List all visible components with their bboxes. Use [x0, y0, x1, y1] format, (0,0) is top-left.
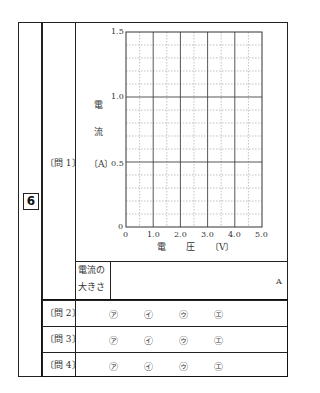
x-axis-label-char-1: 電 — [157, 243, 166, 252]
current-answer-label-line1: 電流の — [78, 266, 105, 275]
x-axis-label-char-2: 圧 — [186, 243, 195, 252]
lower-answer-block-frame — [41, 299, 288, 377]
y-axis-label-char-1: 電 — [94, 101, 103, 110]
x-tick-0: 0 — [123, 231, 128, 239]
graph-grid[interactable] — [126, 32, 262, 227]
question-1-label: 〔問 1〕 — [45, 159, 81, 168]
question-number-badge: 6 — [23, 193, 39, 210]
y-tick-1.0: 1.0 — [111, 93, 124, 101]
current-answer-unit: A — [276, 278, 282, 286]
x-tick-1.0: 1.0 — [147, 231, 160, 239]
x-tick-4.0: 4.0 — [228, 231, 241, 239]
x-tick-2.0: 2.0 — [174, 231, 187, 239]
x-axis-unit: 〔V〕 — [210, 243, 235, 252]
x-tick-5.0: 5.0 — [255, 231, 268, 239]
current-answer-field[interactable] — [111, 262, 276, 299]
y-tick-1.5: 1.5 — [111, 28, 124, 36]
y-axis-label-char-2: 流 — [94, 128, 103, 137]
y-axis-unit: 〔A〕 — [89, 160, 114, 169]
x-tick-3.0: 3.0 — [201, 231, 214, 239]
current-answer-label-line2: 大きさ — [78, 283, 105, 292]
y-tick-0.5: 0.5 — [111, 160, 124, 168]
